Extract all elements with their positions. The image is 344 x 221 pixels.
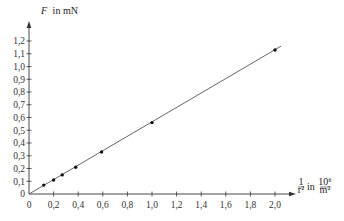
data-point	[150, 121, 153, 124]
data-point	[42, 183, 45, 186]
axes	[27, 21, 296, 196]
x-axis-unit-text: in	[307, 181, 315, 192]
x-tick-label: 0,8	[121, 200, 133, 210]
x-axis-frac-den: r²	[298, 184, 304, 195]
data-point	[74, 166, 77, 169]
data-point	[61, 173, 64, 176]
x-tick-label: 1,6	[220, 200, 232, 210]
y-tick-label: 0,9	[13, 75, 25, 85]
y-tick-label: 1,0	[13, 62, 25, 72]
svg-text:F in mN: F in mN	[40, 5, 78, 16]
x-tick-label: 2,0	[269, 200, 281, 210]
x-tick-label: 1,2	[171, 200, 183, 210]
x-tick-label: 1,8	[244, 200, 256, 210]
x-tick-label: 1,0	[146, 200, 158, 210]
y-tick-label: 0,6	[13, 113, 25, 123]
x-tick-label: 0,4	[72, 200, 84, 210]
y-tick-label: 1,1	[13, 49, 25, 59]
fit-line	[29, 46, 281, 194]
y-tick-label: 1,2	[13, 36, 25, 46]
chart: 00,20,40,60,81,01,21,41,61,82,0 00,10,20…	[0, 0, 344, 221]
x-tick-label: 0,2	[48, 200, 60, 210]
x-tick-label: 0,6	[97, 200, 109, 210]
x-axis-unit-den: m²	[320, 184, 331, 195]
y-tick-label: 0,1	[13, 177, 25, 187]
y-tick-label: 0,4	[13, 138, 25, 148]
x-axis-arrow-icon	[289, 192, 296, 197]
y-tick-label: 0,8	[13, 87, 25, 97]
data-point	[273, 48, 276, 51]
x-axis-title: 1 r² in 10⁶ m²	[298, 176, 332, 195]
y-axis-title: F in mN	[40, 5, 78, 16]
y-axis-arrow-icon	[27, 21, 32, 28]
regression-line	[29, 46, 281, 194]
y-tick-label: 0	[20, 189, 25, 199]
data-point	[52, 178, 55, 181]
x-tick-label: 0	[27, 200, 32, 210]
y-axis-variable: F	[40, 5, 48, 16]
y-tick-label: 0,5	[13, 126, 25, 136]
x-tick-label: 1,4	[195, 200, 207, 210]
y-axis-unit: in mN	[53, 5, 78, 16]
y-tick-label: 0,2	[13, 164, 25, 174]
y-tick-label: 0,3	[13, 151, 25, 161]
data-point	[100, 150, 103, 153]
y-tick-label: 0,7	[13, 100, 25, 110]
